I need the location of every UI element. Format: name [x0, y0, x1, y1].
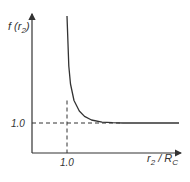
y-axis-label: f (r2)	[8, 20, 30, 35]
x-axis-label: r2 / RC	[147, 152, 178, 167]
y-tick-label: 1.0	[11, 118, 25, 129]
x-tick-label: 1.0	[60, 157, 74, 168]
chart-svg: f (r2) r2 / RC 1.0 1.0	[0, 0, 190, 182]
curve-f-r2	[67, 16, 179, 123]
plot-area	[32, 14, 181, 153]
